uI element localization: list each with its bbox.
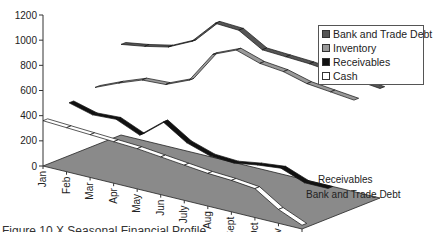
legend-item-cash: Cash — [322, 69, 420, 83]
svg-text:Mar: Mar — [84, 182, 95, 200]
svg-text:Jun: Jun — [155, 200, 166, 216]
svg-text:Sept: Sept — [225, 217, 236, 232]
svg-text:Oct: Oct — [249, 222, 260, 232]
legend-swatch-icon — [322, 30, 330, 38]
svg-text:Receivables: Receivables — [318, 174, 372, 185]
legend-item-bank-trade-debt: Bank and Trade Debt — [322, 27, 420, 41]
y-axis: 020040060080010001200 — [15, 10, 43, 172]
legend-label: Cash — [333, 70, 358, 82]
svg-text:0: 0 — [31, 161, 37, 172]
svg-text:Jan: Jan — [37, 171, 48, 187]
svg-text:Nov: Nov — [272, 228, 283, 232]
legend-swatch-icon — [322, 44, 330, 52]
legend-swatch-icon — [322, 58, 330, 66]
figure-caption: Figure 10.X Seasonal Financial Profile — [2, 224, 206, 232]
legend-label: Bank and Trade Debt — [333, 28, 432, 40]
svg-text:200: 200 — [20, 135, 37, 146]
svg-text:Feb: Feb — [61, 176, 72, 194]
svg-text:July: July — [178, 205, 189, 223]
svg-text:800: 800 — [20, 60, 37, 71]
legend-item-inventory: Inventory — [322, 41, 420, 55]
svg-text:Bank and Trade Debt: Bank and Trade Debt — [306, 189, 401, 200]
svg-text:400: 400 — [20, 110, 37, 121]
legend-item-receivables: Receivables — [322, 55, 420, 69]
legend-label: Inventory — [333, 42, 376, 54]
legend-label: Receivables — [333, 56, 390, 68]
svg-text:1000: 1000 — [15, 35, 38, 46]
svg-text:1200: 1200 — [15, 10, 38, 21]
svg-text:Apr: Apr — [108, 188, 119, 204]
svg-text:May: May — [131, 194, 142, 213]
legend: Bank and Trade Debt Inventory Receivable… — [318, 25, 424, 85]
svg-text:600: 600 — [20, 85, 37, 96]
legend-swatch-icon — [322, 72, 330, 80]
